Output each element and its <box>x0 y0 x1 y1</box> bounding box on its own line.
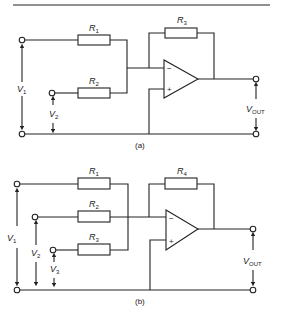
terminal-vout-ground <box>253 131 259 137</box>
resistor-r1 <box>78 178 110 189</box>
terminal-ground <box>14 287 20 293</box>
terminal-ground <box>19 131 25 137</box>
terminal-vout-ground <box>250 287 256 293</box>
noninverting-sign: + <box>169 237 174 246</box>
caption-a: (a) <box>135 141 145 150</box>
label-vout: VOUT <box>246 104 265 115</box>
resistor-r3 <box>78 244 110 255</box>
label-r2: R2 <box>89 199 100 210</box>
terminal-v1 <box>19 37 25 43</box>
label-v2: V2 <box>49 109 59 120</box>
label-vout: VOUT <box>243 256 262 267</box>
inverting-sign: − <box>167 64 172 73</box>
label-r2: R2 <box>89 76 100 87</box>
resistor-r2 <box>78 211 110 222</box>
summing-amplifier-figure: − + R1 R2 R3 V1 V2 VOUT (a) <box>0 0 281 309</box>
label-r3: R3 <box>89 232 100 243</box>
label-r1: R1 <box>89 23 100 34</box>
terminal-vout <box>253 76 259 82</box>
label-r3: R3 <box>177 15 188 26</box>
terminal-v2 <box>49 90 55 96</box>
resistor-r2 <box>78 88 110 98</box>
diagram-a: − + R1 R2 R3 V1 V2 VOUT (a) <box>17 15 265 150</box>
resistor-r4 <box>165 178 197 189</box>
inverting-sign: − <box>169 214 174 223</box>
label-r1: R1 <box>89 166 100 177</box>
resistor-r3 <box>165 28 197 38</box>
label-v2: V2 <box>31 248 41 259</box>
terminal-vout <box>250 226 256 232</box>
resistor-r1 <box>78 35 110 45</box>
terminal-v2 <box>32 214 38 220</box>
terminal-v3 <box>50 247 56 253</box>
label-v3: V3 <box>50 264 60 275</box>
diagram-b: − + R1 R2 R3 R4 V1 V2 V3 VOUT (b) <box>7 166 262 306</box>
noninverting-sign: + <box>167 85 172 94</box>
terminal-v1 <box>14 181 20 187</box>
label-r4: R4 <box>177 166 188 177</box>
label-v1: V1 <box>17 84 27 95</box>
label-v1: V1 <box>7 233 17 244</box>
caption-b: (b) <box>135 297 145 306</box>
